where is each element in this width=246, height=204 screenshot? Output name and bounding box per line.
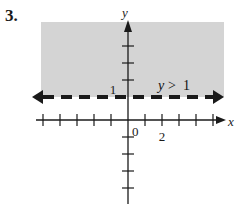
figure-container: 3. (0, 0, 246, 204)
boundary-line-left-arrowhead (32, 90, 43, 104)
x-axis-label: x (227, 114, 234, 129)
origin-label: 0 (132, 124, 139, 139)
shaded-region-above-line (41, 22, 224, 97)
region-label-operator: > (168, 78, 176, 93)
x-axis-arrowhead (216, 116, 226, 124)
y-axis-label: y (120, 5, 128, 20)
region-label-value: 1 (183, 78, 190, 93)
region-label-variable: y (156, 78, 165, 93)
coordinate-graph: y x 1 0 2 y > 1 (0, 0, 246, 204)
y-tick-label-one: 1 (110, 82, 117, 97)
region-inequality-label: y > 1 (156, 78, 190, 93)
x-tick-label-two: 2 (159, 129, 166, 144)
